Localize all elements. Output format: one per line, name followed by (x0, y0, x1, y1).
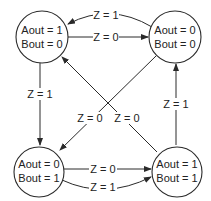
edge-label: Z = 0 (90, 163, 115, 175)
state-line-aout: Aout = 0 (18, 158, 59, 170)
state-node-aout1-bout1: Aout = 1 Bout = 1 (152, 147, 202, 197)
state-node-aout0-bout1: Aout = 0 Bout = 1 (14, 147, 64, 197)
state-line-bout: Bout = 1 (18, 172, 59, 184)
state-diagram: Z = 1 Z = 0 Z = 1 Z = 0 Z = 0 Z = 1 Z = … (0, 0, 211, 201)
edge-label: Z = 1 (93, 9, 118, 21)
state-line-bout: Bout = 1 (156, 172, 197, 184)
edge-label: Z = 0 (114, 112, 139, 124)
edge-label: Z = 0 (77, 112, 102, 124)
edge-label: Z = 1 (27, 88, 52, 100)
state-line-bout: Bout = 0 (21, 38, 62, 50)
state-line-bout: Bout = 0 (154, 38, 195, 50)
state-line-aout: Aout = 1 (156, 158, 197, 170)
state-node-aout0-bout0: Aout = 0 Bout = 0 (149, 11, 201, 63)
edge-label: Z = 1 (163, 98, 188, 110)
edge-s11-to-s10 (62, 57, 157, 152)
state-line-aout: Aout = 1 (21, 24, 62, 36)
edge-label: Z = 0 (93, 31, 118, 43)
state-node-aout1-bout0: Aout = 1 Bout = 0 (16, 11, 68, 63)
edge-label: Z = 1 (90, 181, 115, 193)
state-line-aout: Aout = 0 (154, 24, 195, 36)
